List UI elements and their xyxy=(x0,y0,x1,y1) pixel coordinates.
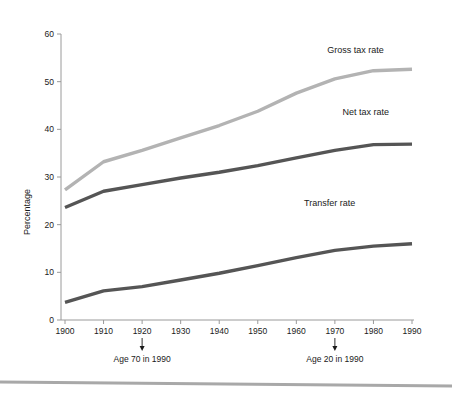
y-tick-label: 60 xyxy=(45,29,55,39)
x-axis: 1900191019201930194019501960197019801990 xyxy=(56,320,422,336)
series-line-0 xyxy=(65,69,412,190)
x-tick-label: 1940 xyxy=(210,326,229,336)
series-label-0: Gross tax rate xyxy=(327,45,384,55)
x-tick-label: 1930 xyxy=(171,326,190,336)
x-tick-label: 1910 xyxy=(94,326,113,336)
series-line-2 xyxy=(65,244,412,303)
annotation-group: Age 70 in 1990Age 20 in 1990 xyxy=(114,338,364,364)
annotation-label-1: Age 20 in 1990 xyxy=(306,354,363,364)
x-tick-label: 1980 xyxy=(364,326,383,336)
annotation-label-0: Age 70 in 1990 xyxy=(114,354,171,364)
line-chart: 0102030405060 19001910192019301940195019… xyxy=(0,0,452,399)
y-tick-label: 10 xyxy=(45,267,55,277)
x-tick-label: 1900 xyxy=(56,326,75,336)
y-axis: 0102030405060 xyxy=(45,29,61,325)
y-tick-label: 50 xyxy=(45,77,55,87)
y-axis-title: Percentage xyxy=(22,189,32,235)
y-tick-label: 30 xyxy=(45,172,55,182)
series-label-2: Transfer rate xyxy=(304,198,355,208)
y-tick-label: 0 xyxy=(49,315,54,325)
x-tick-label: 1920 xyxy=(133,326,152,336)
series-line-1 xyxy=(65,144,412,207)
bottom-divider-rule xyxy=(0,382,452,386)
x-tick-label: 1950 xyxy=(248,326,267,336)
y-tick-label: 20 xyxy=(45,220,55,230)
x-tick-label: 1990 xyxy=(403,326,422,336)
y-tick-label: 40 xyxy=(45,124,55,134)
annotation-arrowhead-icon xyxy=(140,346,145,351)
series-label-1: Net tax rate xyxy=(343,107,390,117)
data-series-group xyxy=(65,69,412,302)
annotation-arrowhead-icon xyxy=(332,346,337,351)
x-tick-label: 1960 xyxy=(287,326,306,336)
x-tick-label: 1970 xyxy=(325,326,344,336)
chart-canvas: 0102030405060 19001910192019301940195019… xyxy=(0,0,452,399)
